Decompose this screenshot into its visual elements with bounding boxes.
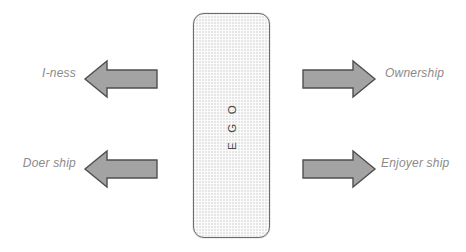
label-enjoyer-ship: Enjoyer ship <box>381 156 466 170</box>
arrow-left-i-ness <box>83 58 159 100</box>
ego-block: E G O <box>193 13 270 238</box>
label-ownership: Ownership <box>385 66 466 80</box>
arrow-right-ownership <box>301 58 377 100</box>
arrow-left-doer-ship <box>83 148 159 190</box>
label-doer-ship: Doer ship <box>0 156 76 170</box>
diagram-canvas: I-ness Doer ship Ownership Enjoyer ship … <box>0 0 466 252</box>
ego-block-label: E G O <box>226 102 238 150</box>
label-i-ness: I-ness <box>0 66 76 80</box>
arrow-right-enjoyer-ship <box>301 148 377 190</box>
